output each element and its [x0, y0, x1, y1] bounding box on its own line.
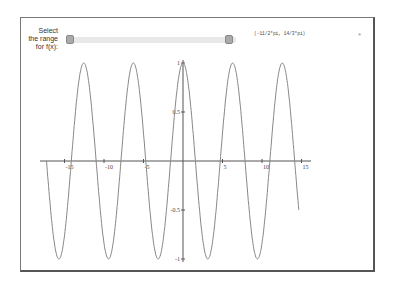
svg-text:0.5: 0.5: [173, 109, 181, 115]
svg-text:-10: -10: [105, 164, 113, 170]
svg-text:1: 1: [177, 60, 180, 66]
svg-text:-5: -5: [145, 164, 150, 170]
svg-text:-1: -1: [175, 256, 180, 262]
svg-text:15: 15: [303, 164, 309, 170]
plot-area: -15-10-551015 10.5-0.5-1: [0, 0, 393, 293]
svg-text:-0.5: -0.5: [171, 207, 181, 213]
svg-text:10: 10: [263, 164, 269, 170]
svg-text:-15: -15: [66, 164, 74, 170]
svg-text:5: 5: [224, 164, 227, 170]
